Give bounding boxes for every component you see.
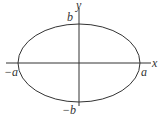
label-neg-b: −b [62,103,76,116]
label-a: a [141,65,147,79]
ellipse-diagram: y x b −b −a a [0,0,160,116]
label-b: b [67,10,73,24]
y-axis-label: y [75,0,82,12]
x-axis-label: x [151,56,158,70]
label-neg-a: −a [4,65,18,79]
